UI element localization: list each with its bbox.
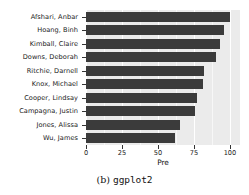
bar[interactable] xyxy=(86,12,230,22)
y-axis-tick-label-text: Afshari, Anbar xyxy=(31,13,78,21)
y-axis-tick-label: Cooper, Lindsay xyxy=(0,91,80,105)
bar-row xyxy=(86,91,240,105)
x-axis-tick-label: 75 xyxy=(190,149,198,157)
caption-name: ggplot2 xyxy=(113,174,152,185)
y-axis-tick-label: Hoang, Binh xyxy=(0,24,80,38)
y-axis-tick-label: Campagna, Justin xyxy=(0,105,80,119)
y-axis-tick-label: Knox, Michael xyxy=(0,78,80,92)
bar-row xyxy=(86,37,240,51)
y-axis-tick-label-text: Knox, Michael xyxy=(32,80,78,88)
bar-row xyxy=(86,118,240,132)
y-axis-tick-label-text: Downs, Deborah xyxy=(23,53,78,61)
caption-label: (b) xyxy=(97,174,111,185)
x-axis-tick-label: 50 xyxy=(154,149,162,157)
bar[interactable] xyxy=(86,120,180,130)
y-axis-tick-label-text: Wu, James xyxy=(43,134,78,142)
bar[interactable] xyxy=(86,52,216,62)
bar-row xyxy=(86,78,240,92)
y-axis-tick-label-text: Jones, Alissa xyxy=(36,121,78,129)
bar[interactable] xyxy=(86,133,175,143)
figure: Afshari, AnbarHoang, BinhKimball, Claire… xyxy=(0,0,249,195)
y-axis-tick-label-text: Ritchie, Darnell xyxy=(27,67,78,75)
y-axis-tick-label: Wu, James xyxy=(0,132,80,146)
bar[interactable] xyxy=(86,39,220,49)
bar[interactable] xyxy=(86,93,197,103)
y-axis-tick-label-text: Hoang, Binh xyxy=(37,26,78,34)
x-axis-tick-label: 0 xyxy=(84,149,88,157)
x-axis-tick-label: 100 xyxy=(224,149,237,157)
chart-panel xyxy=(86,10,240,145)
y-axis-tick-labels: Afshari, AnbarHoang, BinhKimball, Claire… xyxy=(0,10,80,145)
y-axis-tick-label: Ritchie, Darnell xyxy=(0,64,80,78)
chart-plot-area: Afshari, AnbarHoang, BinhKimball, Claire… xyxy=(0,0,249,168)
bar[interactable] xyxy=(86,106,195,116)
y-axis-tick-label: Jones, Alissa xyxy=(0,118,80,132)
y-axis-tick-label-text: Campagna, Justin xyxy=(19,107,78,115)
y-axis-tick-label: Downs, Deborah xyxy=(0,51,80,65)
bar-row xyxy=(86,24,240,38)
y-axis-tick-label: Afshari, Anbar xyxy=(0,10,80,24)
y-axis-tick-label-text: Kimball, Claire xyxy=(30,40,78,48)
y-axis-tick-label-text: Cooper, Lindsay xyxy=(24,94,78,102)
bar-row xyxy=(86,105,240,119)
bar[interactable] xyxy=(86,79,203,89)
bar-series xyxy=(86,10,240,145)
bar-row xyxy=(86,132,240,146)
x-axis-tick-label: 25 xyxy=(118,149,126,157)
bar-row xyxy=(86,64,240,78)
figure-caption: (b) ggplot2 xyxy=(0,174,249,185)
bar[interactable] xyxy=(86,25,224,35)
y-axis-tick-label: Kimball, Claire xyxy=(0,37,80,51)
bar-row xyxy=(86,10,240,24)
bar-row xyxy=(86,51,240,65)
bar[interactable] xyxy=(86,66,204,76)
x-axis-title: Pre xyxy=(86,158,240,167)
